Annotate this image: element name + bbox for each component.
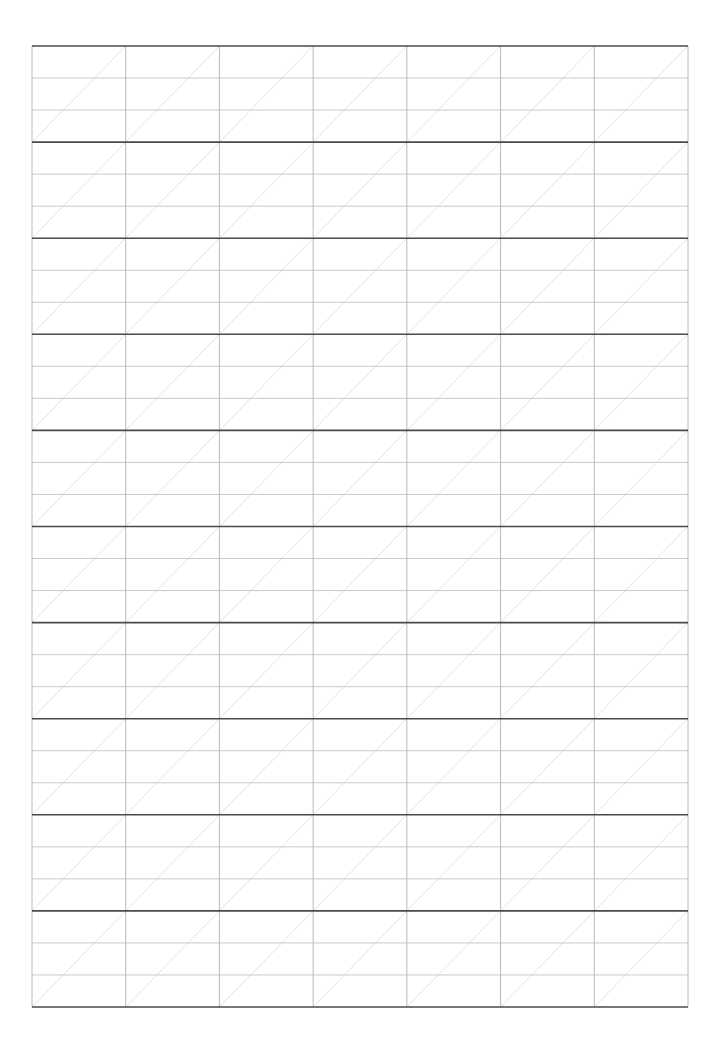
slant-line xyxy=(219,623,313,719)
slant-line xyxy=(32,527,126,623)
slant-line xyxy=(219,142,313,238)
slant-line xyxy=(126,46,220,142)
slant-line xyxy=(32,238,126,334)
slant-line xyxy=(126,334,220,430)
slant-line xyxy=(407,911,501,1007)
slant-line xyxy=(219,815,313,911)
slant-line xyxy=(501,238,595,334)
slant-line xyxy=(219,527,313,623)
slant-line xyxy=(32,142,126,238)
slant-line xyxy=(407,142,501,238)
slant-line xyxy=(126,623,220,719)
slant-line xyxy=(594,815,688,911)
slant-line xyxy=(126,527,220,623)
slant-line xyxy=(407,334,501,430)
slant-line xyxy=(219,719,313,815)
slant-line xyxy=(219,46,313,142)
slant-line xyxy=(594,238,688,334)
slant-line xyxy=(32,623,126,719)
slant-line xyxy=(126,430,220,526)
slant-line xyxy=(501,46,595,142)
slant-line xyxy=(126,142,220,238)
slant-line xyxy=(32,430,126,526)
slant-line xyxy=(313,238,407,334)
slant-line xyxy=(407,719,501,815)
slant-line xyxy=(126,719,220,815)
slant-line xyxy=(126,238,220,334)
slant-line xyxy=(32,334,126,430)
slant-line xyxy=(313,527,407,623)
slant-line xyxy=(313,719,407,815)
slant-line xyxy=(594,911,688,1007)
slant-line xyxy=(594,142,688,238)
slant-line xyxy=(501,623,595,719)
slant-line xyxy=(32,911,126,1007)
calligraphy-grid xyxy=(0,0,723,1042)
slant-line xyxy=(594,527,688,623)
slant-line xyxy=(313,46,407,142)
slant-line xyxy=(407,46,501,142)
slant-line xyxy=(501,815,595,911)
slant-line xyxy=(594,46,688,142)
slant-line xyxy=(594,334,688,430)
slant-line xyxy=(32,815,126,911)
slant-line xyxy=(313,334,407,430)
slant-line xyxy=(407,430,501,526)
slant-line xyxy=(126,815,220,911)
slant-line xyxy=(219,334,313,430)
slant-line xyxy=(407,238,501,334)
slant-line xyxy=(126,911,220,1007)
slant-line xyxy=(313,430,407,526)
slant-line xyxy=(313,911,407,1007)
slant-line xyxy=(501,430,595,526)
slant-line xyxy=(594,430,688,526)
practice-sheet xyxy=(0,0,723,1042)
slant-line xyxy=(501,911,595,1007)
slant-line xyxy=(407,527,501,623)
slant-line xyxy=(501,142,595,238)
slant-line xyxy=(501,719,595,815)
slant-line xyxy=(219,430,313,526)
slant-line xyxy=(501,334,595,430)
slant-line xyxy=(313,623,407,719)
slant-line xyxy=(313,815,407,911)
slant-line xyxy=(32,719,126,815)
slant-line xyxy=(407,623,501,719)
slant-line xyxy=(313,142,407,238)
slant-line xyxy=(594,623,688,719)
slant-line xyxy=(219,911,313,1007)
slant-line xyxy=(594,719,688,815)
slant-line xyxy=(407,815,501,911)
slant-line xyxy=(219,238,313,334)
slant-line xyxy=(501,527,595,623)
slant-line xyxy=(32,46,126,142)
